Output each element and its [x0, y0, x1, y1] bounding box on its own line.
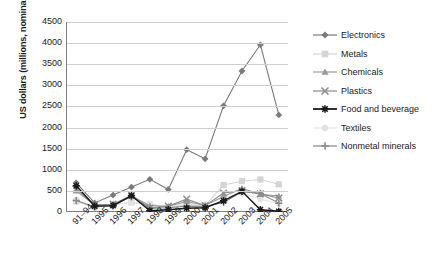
chart-legend: ElectronicsMetalsChemicalsPlasticsFood a…: [312, 26, 444, 156]
legend-swatch-icon: [312, 27, 338, 43]
legend-item-electronics[interactable]: Electronics: [312, 26, 444, 45]
gridline: [67, 64, 288, 65]
gridline: [67, 85, 288, 86]
y-axis-tick-label: 500: [26, 186, 62, 195]
legend-item-plastics[interactable]: Plastics: [312, 82, 444, 101]
series-electronics: [73, 41, 282, 206]
legend-item-food-and-beverage[interactable]: Food and beverage: [312, 100, 444, 119]
data-point-marker: [202, 155, 209, 162]
y-axis-tick-label: 3000: [26, 80, 62, 89]
gridline: [67, 43, 288, 44]
y-axis-tick-label: 2000: [26, 123, 62, 132]
gridline: [67, 149, 288, 150]
plot-area: [66, 22, 287, 212]
data-point-marker: [257, 176, 263, 182]
gridline: [67, 170, 288, 171]
legend-swatch-icon: [312, 101, 338, 117]
y-axis-tick-label: 0: [26, 207, 62, 216]
data-point-marker: [322, 50, 329, 57]
gridline: [67, 22, 288, 23]
legend-swatch-icon: [312, 46, 338, 62]
data-point-marker: [275, 111, 282, 118]
y-axis-ticks: 450040003500300025002000150010005000: [22, 0, 62, 255]
data-point-marker: [321, 105, 329, 113]
legend-swatch-icon: [312, 83, 338, 99]
data-point-marker: [220, 182, 226, 188]
gridline: [67, 191, 288, 192]
data-point-marker: [276, 181, 282, 187]
data-point-marker: [146, 176, 153, 183]
gridline: [67, 106, 288, 107]
data-point-marker: [321, 142, 329, 150]
data-point-marker: [128, 184, 135, 191]
y-axis-tick-label: 4000: [26, 38, 62, 47]
legend-label: Metals: [338, 49, 368, 59]
legend-swatch-icon: [312, 64, 338, 80]
data-point-marker: [128, 192, 135, 199]
data-point-marker: [73, 182, 80, 189]
series-lines: [67, 22, 288, 212]
y-axis-tick-label: 3500: [26, 59, 62, 68]
data-point-marker: [239, 178, 245, 184]
legend-item-textiles[interactable]: Textiles: [312, 119, 444, 138]
chart-figure: US dollars (millions, nominal) 450040003…: [0, 0, 444, 255]
data-point-marker: [239, 68, 246, 75]
data-point-marker: [109, 202, 116, 209]
y-axis-tick-label: 4500: [26, 17, 62, 26]
y-axis-tick-label: 2500: [26, 101, 62, 110]
data-point-marker: [183, 146, 190, 153]
y-axis-tick-label: 1000: [26, 165, 62, 174]
legend-item-nonmetal-minerals[interactable]: Nonmetal minerals: [312, 137, 444, 156]
legend-swatch-icon: [312, 138, 338, 154]
legend-label: Electronics: [338, 30, 385, 40]
legend-label: Plastics: [338, 86, 372, 96]
legend-label: Nonmetal minerals: [338, 141, 416, 151]
gridline: [67, 128, 288, 129]
x-axis-ticks: 91–9419951996199719981999200020012002200…: [66, 216, 296, 255]
legend-label: Food and beverage: [338, 104, 419, 114]
legend-label: Chemicals: [338, 67, 383, 77]
data-point-marker: [321, 32, 328, 39]
data-point-marker: [220, 197, 227, 204]
y-axis-tick-label: 1500: [26, 144, 62, 153]
legend-item-metals[interactable]: Metals: [312, 45, 444, 64]
data-point-marker: [110, 192, 117, 199]
legend-label: Textiles: [338, 123, 371, 133]
legend-item-chemicals[interactable]: Chemicals: [312, 63, 444, 82]
data-point-marker: [322, 124, 329, 131]
legend-swatch-icon: [312, 120, 338, 136]
